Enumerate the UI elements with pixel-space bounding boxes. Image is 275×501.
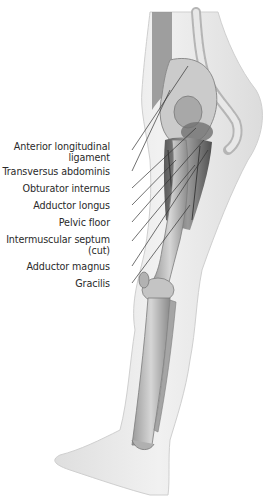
label-transversus-abdominis: Transversus abdominis [2,166,110,177]
label-pelvic-floor: Pelvic floor [59,217,110,228]
label-anterior-longitudinal-ligament: Anterior longitudinal ligament [0,141,110,163]
label-intermuscular-septum: Intermuscular septum (cut) [0,234,110,256]
label-adductor-magnus: Adductor magnus [26,261,110,272]
label-line: (cut) [0,245,110,256]
label-obturator-internus: Obturator internus [23,183,110,194]
patella [139,272,149,288]
label-gracilis: Gracilis [75,278,110,289]
label-line: ligament [0,152,110,163]
label-line: Anterior longitudinal [0,141,110,152]
label-adductor-longus: Adductor longus [33,200,110,211]
label-line: Intermuscular septum [0,234,110,245]
